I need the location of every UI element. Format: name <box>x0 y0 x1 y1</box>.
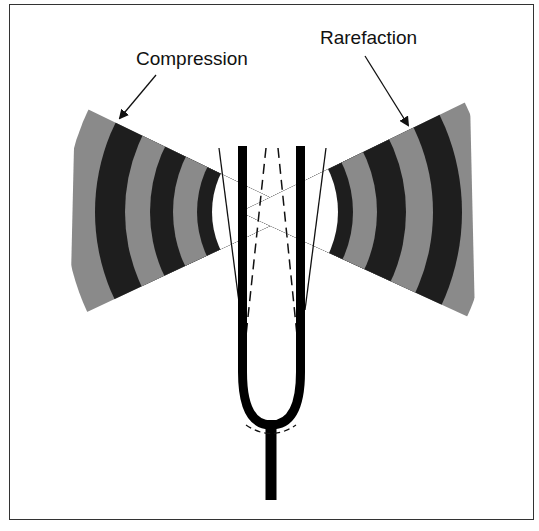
compression-arrow <box>120 75 156 118</box>
tuning-fork-diagram <box>0 0 539 531</box>
left-inward-dashed-line <box>245 148 266 345</box>
rarefaction-arrow <box>365 56 408 125</box>
right-inward-dashed-line <box>278 148 298 345</box>
